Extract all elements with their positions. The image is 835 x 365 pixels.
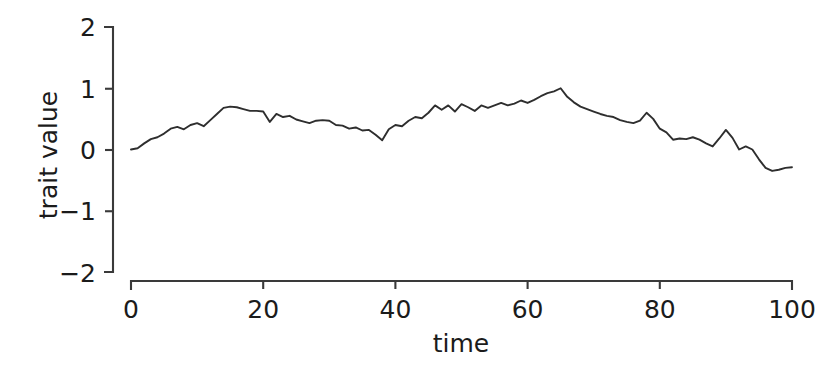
x-tick-label-0: 0 bbox=[123, 295, 139, 324]
y-tick-label-0: 0 bbox=[80, 136, 96, 165]
y-tick-label-2: 2 bbox=[80, 13, 96, 42]
x-tick-label-40: 40 bbox=[379, 295, 411, 324]
x-tick-label-20: 20 bbox=[247, 295, 279, 324]
line-chart: trait value 2 1 0 −1 −2 0 20 40 60 80 10… bbox=[0, 0, 835, 365]
x-axis-title: time bbox=[433, 329, 489, 358]
y-tick-label-minus2: −2 bbox=[59, 259, 96, 288]
x-axis-line bbox=[131, 281, 792, 290]
y-tick-label-minus1: −1 bbox=[59, 197, 96, 226]
x-tick-label-80: 80 bbox=[644, 295, 676, 324]
trait-value-line bbox=[131, 88, 792, 171]
chart-figure: trait value 2 1 0 −1 −2 0 20 40 60 80 10… bbox=[0, 0, 835, 365]
y-tick-label-1: 1 bbox=[80, 75, 96, 104]
x-tick-label-100: 100 bbox=[768, 295, 816, 324]
x-tick-label-60: 60 bbox=[512, 295, 544, 324]
